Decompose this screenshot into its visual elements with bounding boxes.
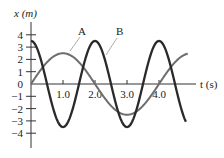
- leader-b: [106, 38, 117, 55]
- x-tick-label: 1.0: [56, 88, 70, 100]
- y-tick-label: 0: [18, 78, 24, 90]
- y-axis-label: x (m): [13, 7, 37, 20]
- x-tick-label: 3.0: [120, 88, 134, 100]
- y-tick-label: 2: [18, 53, 24, 65]
- y-tick-label: 4: [18, 29, 24, 41]
- leader-a: [70, 37, 80, 51]
- chart: 43210−1−2−3−4 1.02.03.04.0 x (m) t (s) A…: [0, 0, 224, 158]
- y-tick-label: −2: [11, 103, 23, 115]
- y-tick-label: 1: [18, 66, 24, 78]
- y-tick-label: −4: [11, 127, 23, 139]
- label-a: A: [78, 25, 86, 37]
- x-tick-label: 2.0: [88, 88, 102, 100]
- y-tick-label: 3: [18, 41, 24, 53]
- label-b: B: [116, 25, 123, 37]
- y-tick-label: −1: [11, 90, 23, 102]
- x-axis-label: t (s): [200, 78, 218, 91]
- y-tick-label: −3: [11, 115, 23, 127]
